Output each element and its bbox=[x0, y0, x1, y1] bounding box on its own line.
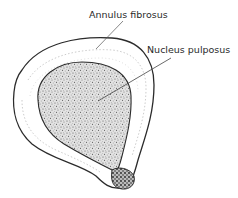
annulus-fibrosus-label: Annulus fibrosus bbox=[89, 10, 168, 20]
disc-illustration bbox=[0, 0, 238, 198]
nucleus-pulposus-label: Nucleus pulposus bbox=[147, 45, 230, 55]
disc-diagram: Annulus fibrosus Nucleus pulposus bbox=[0, 0, 238, 198]
